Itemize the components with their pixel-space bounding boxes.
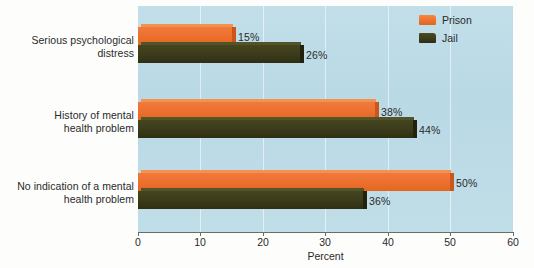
category-label-line2: health problem xyxy=(2,193,134,206)
bar-top-face xyxy=(141,117,414,120)
legend-label-prison: Prison xyxy=(442,14,472,26)
category-label-line2: health problem xyxy=(2,122,134,135)
x-tick-label-50: 50 xyxy=(444,236,456,248)
category-label-no-indication-of-a-mental-health-problem: No indication of a mental health problem xyxy=(2,180,134,205)
bar-top-face xyxy=(141,99,376,102)
value-label-jail-serious-psychological-distress: 26% xyxy=(306,49,327,61)
legend-swatch-prison-icon xyxy=(419,15,436,25)
category-label-line1: Serious psychological xyxy=(2,34,134,47)
bar-jail-history-of-mental-health-problem[interactable] xyxy=(138,120,413,138)
bar-top-face xyxy=(141,42,301,45)
bar-top-face xyxy=(141,188,364,191)
legend-item-jail[interactable]: Jail xyxy=(419,30,503,45)
bar-end-cap xyxy=(450,173,454,191)
value-label-jail-history-of-mental-health-problem: 44% xyxy=(419,124,440,136)
bar-jail-serious-psychological-distress[interactable] xyxy=(138,45,300,63)
x-tick-label-20: 20 xyxy=(257,236,269,248)
value-label-prison-no-indication-of-a-mental-health-problem: 50% xyxy=(456,177,477,189)
legend-label-jail: Jail xyxy=(442,32,458,44)
legend-item-prison[interactable]: Prison xyxy=(419,12,503,27)
x-tick-label-40: 40 xyxy=(382,236,394,248)
bar-end-cap xyxy=(363,191,367,209)
x-tick-label-30: 30 xyxy=(319,236,331,248)
x-axis-title: Percent xyxy=(138,250,513,262)
value-label-jail-no-indication-of-a-mental-health-problem: 36% xyxy=(369,195,390,207)
bar-top-face xyxy=(141,170,451,173)
legend: Prison Jail xyxy=(419,12,503,48)
bar-end-cap xyxy=(413,120,417,138)
value-label-prison-history-of-mental-health-problem: 38% xyxy=(381,106,402,118)
bar-chart: Prison Jail 15% 26% 38% 44% 50% 36% Seri… xyxy=(0,0,534,268)
value-label-prison-serious-psychological-distress: 15% xyxy=(238,31,259,43)
category-label-history-of-mental-health-problem: History of mental health problem xyxy=(2,109,134,134)
bar-top-face xyxy=(141,24,233,27)
category-axis-labels: Serious psychological distress History o… xyxy=(0,6,134,232)
category-label-line1: No indication of a mental xyxy=(2,180,134,193)
x-tick-label-0: 0 xyxy=(135,236,141,248)
plot-area: Prison Jail xyxy=(138,6,513,232)
x-tick-label-60: 60 xyxy=(507,236,519,248)
category-label-serious-psychological-distress: Serious psychological distress xyxy=(2,34,134,59)
category-label-line1: History of mental xyxy=(2,109,134,122)
bar-end-cap xyxy=(300,45,304,63)
x-tick-label-10: 10 xyxy=(194,236,206,248)
category-label-line2: distress xyxy=(2,47,134,60)
legend-swatch-jail-icon xyxy=(419,33,436,43)
bar-jail-no-indication-of-a-mental-health-problem[interactable] xyxy=(138,191,363,209)
